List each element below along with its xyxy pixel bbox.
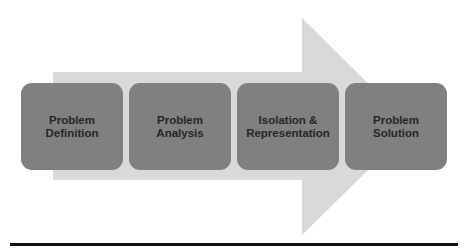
horizontal-rule [10,243,458,246]
step-label: Isolation & Representation [246,114,330,140]
step-problem-definition: Problem Definition [21,83,123,170]
step-label: Problem Solution [373,114,419,140]
step-label: Problem Analysis [156,114,203,140]
step-isolation-representation: Isolation & Representation [237,83,339,170]
step-problem-solution: Problem Solution [345,83,447,170]
step-label: Problem Definition [45,114,98,140]
step-problem-analysis: Problem Analysis [129,83,231,170]
